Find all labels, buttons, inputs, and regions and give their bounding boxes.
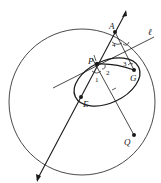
label-P: P	[87, 56, 94, 66]
label-E: E	[82, 99, 89, 109]
normal-tick	[94, 55, 96, 61]
point-Q	[132, 133, 136, 137]
point-G	[132, 68, 136, 72]
geometry-diagram: A ℓ 4 P 3 2 1 G E Q	[0, 0, 161, 183]
label-G: G	[130, 73, 137, 83]
outer-circle	[9, 29, 155, 175]
line-PQ	[92, 58, 134, 135]
arrow-down-icon	[36, 174, 41, 182]
label-angle3: 3	[123, 60, 127, 68]
label-angle4: 4	[112, 41, 116, 49]
angle-2-arc	[102, 65, 105, 69]
tick-mark	[112, 88, 116, 90]
label-angle2: 2	[106, 69, 110, 77]
point-P	[95, 62, 99, 66]
label-Q: Q	[124, 137, 131, 147]
label-ell: ℓ	[148, 27, 152, 37]
label-A: A	[108, 21, 115, 31]
angle-3-arc	[128, 63, 133, 65]
arrow-up-icon	[122, 10, 127, 17]
label-angle1: 1	[95, 76, 99, 84]
